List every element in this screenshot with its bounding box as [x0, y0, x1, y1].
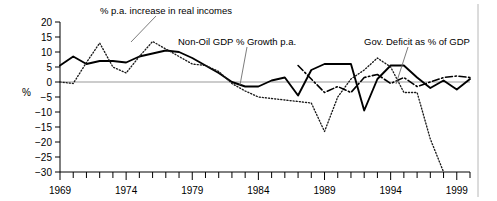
annotation-real-incomes: % p.a. increase in real incomes [100, 5, 232, 16]
y-tick-label: 15 [41, 32, 53, 43]
chart-container: 20151050−5−10−15−20−25−30 19691974197919… [0, 0, 497, 201]
x-tick-label: 1999 [446, 185, 469, 196]
economic-indicators-line-chart: 20151050−5−10−15−20−25−30 19691974197919… [0, 0, 497, 201]
chart-background [0, 0, 497, 201]
x-tick-label: 1984 [247, 185, 270, 196]
x-tick-label: 1969 [49, 185, 72, 196]
x-tick-label: 1989 [313, 185, 336, 196]
x-tick-label: 1974 [115, 185, 138, 196]
y-tick-label: −10 [35, 107, 52, 118]
y-tick-label: −30 [35, 167, 52, 178]
y-tick-label: −5 [41, 92, 53, 103]
annotation-non-oil-gdp: Non-Oil GDP % Growth p.a. [178, 36, 296, 47]
y-axis-label: % [22, 87, 31, 98]
y-tick-label: 20 [41, 17, 53, 28]
y-tick-label: −25 [35, 152, 52, 163]
x-tick-label: 1979 [181, 185, 204, 196]
y-tick-label: 10 [41, 47, 53, 58]
y-tick-label: 0 [46, 77, 52, 88]
y-tick-label: 5 [46, 62, 52, 73]
x-tick-label: 1994 [380, 185, 403, 196]
y-tick-label: −15 [35, 122, 52, 133]
annotation-gov-deficit: Gov. Deficit as % of GDP [364, 36, 470, 47]
y-tick-label: −20 [35, 137, 52, 148]
